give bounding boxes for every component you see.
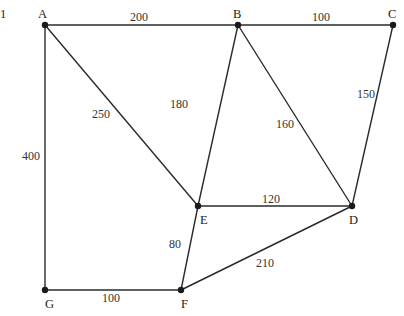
edge-e-f <box>181 206 198 290</box>
node-label-f: F <box>181 297 188 311</box>
edge-weight-label: 210 <box>256 256 274 270</box>
edge-weight-label: 180 <box>170 97 188 111</box>
edge-weight-label: 150 <box>357 87 375 101</box>
node-label-e: E <box>200 213 208 227</box>
edge-b-d <box>238 25 352 206</box>
node-label-c: C <box>388 7 396 21</box>
edge-b-e <box>198 25 238 206</box>
node-label-d: D <box>349 213 358 227</box>
edge-weight-label: 100 <box>102 291 120 305</box>
edge-weight-label: 100 <box>312 10 330 24</box>
node-labels-group: ABCDEFG <box>38 7 396 311</box>
node-f <box>178 287 184 293</box>
edge-weight-label: 250 <box>92 107 110 121</box>
edge-weight-label: 400 <box>22 149 40 163</box>
node-label-b: B <box>233 7 241 21</box>
edge-weight-label: 160 <box>276 117 294 131</box>
node-label-a: A <box>38 7 47 21</box>
edge-a-e <box>45 25 198 206</box>
figure-number: 1 <box>0 7 6 21</box>
graph-diagram: 1 20010040025018016015012080210100 ABCDE… <box>0 0 404 316</box>
node-b <box>235 22 241 28</box>
edge-weight-label: 120 <box>262 192 280 206</box>
edge-weight-label: 200 <box>130 10 148 24</box>
node-c <box>390 22 396 28</box>
nodes-group <box>42 22 396 293</box>
node-e <box>195 203 201 209</box>
edge-weight-label: 80 <box>169 237 181 251</box>
node-d <box>349 203 355 209</box>
node-label-g: G <box>45 297 54 311</box>
node-g <box>42 287 48 293</box>
node-a <box>42 22 48 28</box>
edge-c-d <box>352 25 393 206</box>
edges-group <box>45 25 393 290</box>
